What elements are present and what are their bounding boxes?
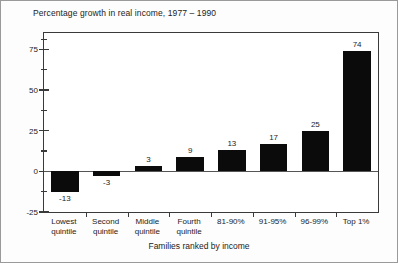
category-label-line: Top 1% <box>343 217 370 227</box>
chart-title: Percentage growth in real income, 1977 –… <box>33 8 216 18</box>
y-axis-tick-label: 75 <box>29 45 38 54</box>
bar <box>51 171 79 192</box>
bar-value-label: 9 <box>188 146 192 155</box>
bar <box>302 131 330 172</box>
bar-value-label: 74 <box>353 40 362 49</box>
category-label-line: Middle <box>135 217 160 227</box>
category-label-line: 81-90% <box>217 217 245 227</box>
category-label: Lowestquintile <box>51 217 76 236</box>
y-axis-tick-label: 50 <box>29 85 38 94</box>
bar <box>93 171 121 176</box>
category-label-line: 91-95% <box>259 217 287 227</box>
chart-figure: Percentage growth in real income, 1977 –… <box>0 0 398 263</box>
plot-inner: 7550250-25-13-33913172574 <box>44 33 378 212</box>
y-axis-tick <box>39 49 49 50</box>
x-axis-tick <box>86 212 87 217</box>
category-label: Fourthquintile <box>176 217 201 236</box>
bar <box>176 157 204 172</box>
bar-value-label: -3 <box>103 178 110 187</box>
category-label: 91-95% <box>259 217 287 227</box>
y-axis-tick <box>39 211 49 212</box>
category-label-line: Second <box>92 217 119 227</box>
x-axis-tick <box>253 212 254 217</box>
bar-value-label: 17 <box>269 133 278 142</box>
bar-value-label: 25 <box>311 120 320 129</box>
x-axis-tick <box>295 212 296 217</box>
x-axis-tick <box>211 212 212 217</box>
category-label-line: Fourth <box>176 217 201 227</box>
bar <box>260 144 288 172</box>
x-axis-tick <box>128 212 129 217</box>
plot-area: 7550250-25-13-33913172574 <box>43 32 379 213</box>
category-label-line: 96-99% <box>301 217 329 227</box>
category-label: 96-99% <box>301 217 329 227</box>
y-axis-minor-tick <box>41 150 47 151</box>
bar-value-label: 3 <box>146 155 150 164</box>
y-axis-tick-label: 0 <box>34 167 38 176</box>
category-label-line: Lowest <box>51 217 76 227</box>
category-label-line: quintile <box>135 227 160 237</box>
y-axis-minor-tick <box>41 110 47 111</box>
y-axis-tick-label: -25 <box>26 208 38 217</box>
category-label: Middlequintile <box>135 217 160 236</box>
category-label: 81-90% <box>217 217 245 227</box>
x-axis-tick <box>336 212 337 217</box>
category-label-line: quintile <box>51 227 76 237</box>
y-axis-minor-tick <box>41 69 47 70</box>
bar <box>343 51 371 171</box>
x-axis-title: Families ranked by income <box>1 241 397 251</box>
x-axis-tick <box>169 212 170 217</box>
y-axis-tick-label: 25 <box>29 126 38 135</box>
bar <box>135 166 163 171</box>
y-axis-tick <box>39 89 49 90</box>
category-label: Secondquintile <box>92 217 119 236</box>
bar-value-label: 13 <box>227 139 236 148</box>
y-axis-minor-tick <box>41 39 47 40</box>
category-label-line: quintile <box>176 227 201 237</box>
category-label-line: quintile <box>92 227 119 237</box>
bar <box>218 150 246 171</box>
y-axis-minor-tick <box>41 191 47 192</box>
bar-value-label: -13 <box>59 194 71 203</box>
y-axis-tick <box>39 130 49 131</box>
category-label: Top 1% <box>343 217 370 227</box>
